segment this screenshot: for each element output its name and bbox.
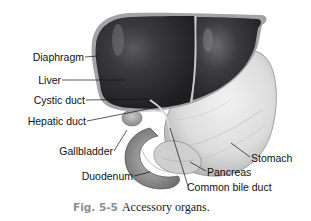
label-liver: Liver bbox=[10, 74, 61, 86]
label-stomach: Stomach bbox=[251, 152, 292, 164]
accessory-organs-figure: Diaphragm Liver Cystic duct Hepatic duct… bbox=[0, 0, 311, 221]
figure-number: Fig. 5-5 bbox=[73, 201, 118, 213]
label-duodenum: Duodenum bbox=[50, 170, 133, 182]
label-cystic-duct: Cystic duct bbox=[10, 94, 85, 106]
label-common-bile-duct: Common bile duct bbox=[187, 181, 272, 193]
label-hepatic-duct: Hepatic duct bbox=[5, 115, 86, 127]
label-pancreas: Pancreas bbox=[207, 166, 251, 178]
figure-caption: Fig. 5-5Accessory organs. bbox=[73, 199, 210, 214]
figure-caption-text: Accessory organs. bbox=[122, 200, 210, 214]
label-gallbladder: Gallbladder bbox=[30, 145, 113, 157]
label-diaphragm: Diaphragm bbox=[10, 51, 84, 63]
